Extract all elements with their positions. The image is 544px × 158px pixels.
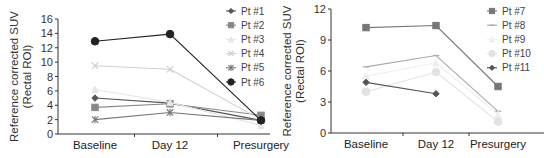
legend-item: Pt #4: [226, 48, 265, 59]
legend: Pt #1Pt #2Pt #3Pt #4Pt #5Pt #6: [226, 6, 265, 88]
legend-label: Pt #5: [241, 62, 265, 73]
legend-item: Pt #5: [226, 62, 265, 73]
y-axis-label: (Rectal ROI): [294, 39, 306, 103]
x-tick-label: Baseline: [344, 138, 388, 150]
data-point-marker: [495, 83, 501, 89]
line-chart-1: 0246810121416BaselineDay 12PresurgeryRef…: [8, 6, 289, 152]
y-tick-label: 6: [47, 85, 53, 97]
data-point-marker: [228, 37, 233, 42]
y-tick-label: 4: [47, 99, 53, 111]
data-point-marker: [228, 23, 233, 28]
series-pt-10: [362, 68, 502, 125]
data-point-marker: [92, 95, 98, 101]
legend-item: Pt #9: [487, 34, 526, 45]
legend-label: Pt #7: [502, 6, 526, 17]
data-point-marker: [228, 8, 233, 13]
data-point-marker: [489, 50, 495, 56]
y-axis-label: Reference corrected SUV: [8, 11, 20, 142]
data-point-marker: [257, 117, 265, 125]
x-tick-label: Presurgery: [470, 138, 526, 150]
y-tick-label: 12: [41, 42, 53, 54]
x-tick-label: Day 12: [418, 138, 454, 150]
chart-figure: 0246810121416BaselineDay 12PresurgeryRef…: [0, 0, 544, 158]
legend-label: Pt #6: [241, 77, 265, 88]
legend-item: Pt #1: [226, 6, 265, 17]
y-tick-label: 0: [47, 128, 53, 140]
x-tick-label: Presurgery: [233, 139, 289, 151]
legend-item: Pt #8: [487, 20, 526, 31]
series-pt-9: [363, 60, 501, 118]
y-tick-label: 8: [47, 71, 53, 83]
series-line: [366, 82, 436, 93]
legend: Pt #7Pt #8Pt #9Pt #10Pt #11: [487, 6, 531, 74]
y-tick-label: 16: [41, 13, 53, 25]
y-tick-label: 9: [320, 34, 326, 46]
data-point-marker: [92, 104, 98, 110]
data-point-marker: [494, 118, 502, 126]
legend-item: Pt #2: [226, 20, 265, 31]
legend-item: Pt #3: [226, 34, 265, 45]
x-tick-label: Baseline: [73, 139, 117, 151]
y-tick-label: 6: [320, 65, 326, 77]
y-tick-label: 12: [314, 3, 326, 15]
series-line: [95, 66, 261, 120]
data-point-marker: [363, 24, 369, 30]
y-tick-label: 14: [41, 27, 53, 39]
data-point-marker: [363, 79, 369, 85]
data-point-marker: [433, 22, 439, 28]
data-point-marker: [489, 37, 494, 42]
legend-label: Pt #9: [502, 34, 526, 45]
data-point-marker: [166, 30, 174, 38]
legend-item: Pt #7: [487, 6, 526, 17]
data-point-marker: [489, 65, 494, 70]
series-pt-6: [91, 30, 265, 124]
y-tick-label: 10: [41, 56, 53, 68]
y-axis-label: (Rectal ROI): [21, 44, 33, 108]
data-point-marker: [362, 88, 370, 96]
data-point-marker: [432, 68, 440, 76]
data-point-marker: [91, 37, 99, 45]
y-tick-label: 3: [320, 96, 326, 108]
legend-item: Pt #11: [487, 62, 531, 73]
data-point-marker: [489, 8, 494, 13]
legend-label: Pt #3: [241, 34, 265, 45]
y-tick-label: 0: [320, 127, 326, 139]
legend-item: Pt #6: [226, 77, 265, 88]
series-line: [366, 72, 498, 122]
legend-label: Pt #8: [502, 20, 526, 31]
y-axis-label: Reference corrected SUV: [281, 5, 293, 136]
data-point-marker: [228, 79, 234, 85]
series-line: [95, 89, 261, 125]
line-chart-2: 036912BaselineDay 12PresurgeryReference …: [281, 3, 544, 150]
legend-item: Pt #10: [487, 48, 531, 59]
data-point-marker: [433, 91, 439, 97]
legend-label: Pt #1: [241, 6, 265, 17]
y-tick-label: 2: [47, 114, 53, 126]
x-tick-label: Day 12: [152, 139, 188, 151]
series-pt-4: [92, 63, 264, 123]
series-line: [95, 34, 261, 120]
legend-label: Pt #2: [241, 20, 265, 31]
legend-label: Pt #4: [241, 48, 265, 59]
legend-label: Pt #10: [502, 48, 531, 59]
legend-label: Pt #11: [502, 62, 531, 73]
